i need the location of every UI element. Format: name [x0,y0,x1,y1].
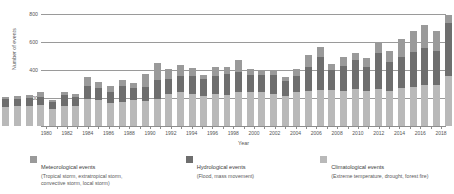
bar-segment-hydrological [258,75,265,93]
bar-stack [61,92,68,126]
bar-segment-meteorological [165,69,172,80]
legend-text-meteorological: Meteorological events (Tropical storm, e… [41,155,122,187]
bar-stack [445,15,452,126]
bar-column[interactable] [58,14,70,126]
bar-column[interactable] [128,14,140,126]
bar-segment-climatological [398,88,405,126]
bar-column[interactable] [279,14,291,126]
x-axis-tick-label [72,130,82,138]
bar-segment-meteorological [421,25,428,47]
bar-column[interactable] [47,14,59,126]
bar-column[interactable] [70,14,82,126]
bar-column[interactable] [198,14,210,126]
bar-column[interactable] [244,14,256,126]
x-axis-tick-label: 1986 [103,130,113,138]
bar-segment-hydrological [235,72,242,92]
bar-column[interactable] [268,14,280,126]
x-axis-tick-label: 2004 [290,130,300,138]
bar-column[interactable] [384,14,396,126]
bar-segment-hydrological [26,98,33,106]
bar-stack [72,94,79,126]
bar-column[interactable] [419,14,431,126]
bar-segment-hydrological [130,88,137,101]
bar-column[interactable] [291,14,303,126]
bar-stack [14,96,21,126]
bar-column[interactable] [93,14,105,126]
bar-segment-meteorological [212,67,219,75]
bar-segment-hydrological [328,70,335,90]
bar-segment-meteorological [433,31,440,51]
bar-segment-hydrological [177,76,184,92]
bar-column[interactable] [151,14,163,126]
bar-segment-hydrological [49,102,56,109]
x-axis-tick-label: 1984 [83,130,93,138]
bar-column[interactable] [163,14,175,126]
bar-segment-climatological [49,109,56,126]
bar-segment-hydrological [37,97,44,105]
bar-column[interactable] [105,14,117,126]
bar-segment-hydrological [317,57,324,90]
bar-segment-climatological [247,92,254,126]
bar-column[interactable] [81,14,93,126]
bar-series-container [0,14,454,126]
bar-column[interactable] [361,14,373,126]
bar-stack [282,77,289,126]
bar-segment-climatological [130,100,137,126]
bar-stack [247,69,254,126]
bar-column[interactable] [326,14,338,126]
bar-column[interactable] [373,14,385,126]
legend-sub-line: (Flood, mass movement) [197,173,254,180]
bar-column[interactable] [256,14,268,126]
bar-stack [293,69,300,126]
bar-column[interactable] [0,14,12,126]
bar-column[interactable] [23,14,35,126]
bar-column[interactable] [431,14,443,126]
x-axis-tick-label: 1992 [166,130,176,138]
legend-sub-line: (Extreme temperature, drought, forest fi… [331,173,428,180]
bar-column[interactable] [349,14,361,126]
bar-stack [95,82,102,126]
bar-stack [107,86,114,126]
bar-column[interactable] [210,14,222,126]
bar-segment-climatological [200,96,207,126]
legend-title-climatological: Climatological events [331,164,384,170]
bar-segment-meteorological [305,55,312,67]
x-axis-title: Year [41,140,446,146]
bar-column[interactable] [175,14,187,126]
bar-stack [352,53,359,126]
bar-segment-hydrological [282,81,289,96]
bar-column[interactable] [233,14,245,126]
bar-column[interactable] [221,14,233,126]
bar-segment-hydrological [247,75,254,93]
legend-swatch-climatological-icon [320,156,327,163]
bar-column[interactable] [442,14,454,126]
x-axis-tick-labels: 1980198219841986198819901992199419961998… [41,130,446,138]
bar-column[interactable] [407,14,419,126]
bar-column[interactable] [186,14,198,126]
bar-segment-meteorological [154,63,161,80]
bar-column[interactable] [12,14,24,126]
bar-column[interactable] [314,14,326,126]
bar-stack [224,67,231,126]
bar-column[interactable] [140,14,152,126]
bar-stack [49,100,56,126]
bar-column[interactable] [303,14,315,126]
bar-stack [212,67,219,126]
bar-column[interactable] [35,14,47,126]
x-axis-tick-label: 2016 [415,130,425,138]
legend-sub-meteorological: (Tropical storm, extratropical storm, co… [41,173,122,187]
bar-segment-hydrological [433,51,440,85]
bar-stack [270,71,277,126]
bar-column[interactable] [116,14,128,126]
bar-segment-hydrological [352,60,359,89]
x-axis-tick-label [51,130,61,138]
bar-segment-meteorological [375,42,382,53]
bar-segment-meteorological [398,39,405,57]
bar-segment-climatological [142,101,149,126]
bar-stack [340,57,347,126]
bar-stack [165,69,172,126]
bar-column[interactable] [396,14,408,126]
legend-item-climatological: Climatological events (Extreme temperatu… [320,155,454,194]
x-axis-tick-label [301,130,311,138]
bar-column[interactable] [338,14,350,126]
